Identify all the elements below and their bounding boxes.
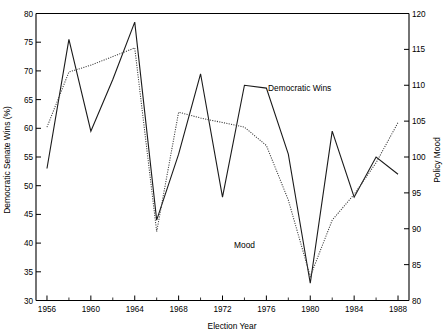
svg-text:110: 110 bbox=[412, 81, 425, 90]
svg-text:95: 95 bbox=[412, 189, 422, 198]
y-axis-left-title: Democratic Senate Wins (%) bbox=[2, 106, 12, 214]
x-axis-title: Election Year bbox=[208, 321, 257, 331]
svg-text:30: 30 bbox=[24, 297, 34, 306]
svg-text:65: 65 bbox=[24, 96, 34, 105]
annotation-democratic-wins: Democratic Wins bbox=[268, 83, 331, 93]
svg-text:1960: 1960 bbox=[82, 305, 101, 314]
svg-text:40: 40 bbox=[24, 239, 34, 248]
y-axis-right-ticks bbox=[404, 14, 409, 301]
svg-text:50: 50 bbox=[24, 182, 34, 191]
svg-text:35: 35 bbox=[24, 268, 34, 277]
svg-text:1988: 1988 bbox=[389, 305, 408, 314]
svg-text:1956: 1956 bbox=[38, 305, 57, 314]
annotation-mood: Mood bbox=[234, 240, 255, 250]
series-mood-line bbox=[47, 48, 398, 276]
y-axis-right-tick-labels: 80859095100105110115120 bbox=[412, 10, 426, 306]
x-axis-ticks bbox=[47, 296, 398, 301]
svg-text:1984: 1984 bbox=[345, 305, 364, 314]
svg-text:1968: 1968 bbox=[170, 305, 189, 314]
svg-text:105: 105 bbox=[412, 117, 426, 126]
svg-text:75: 75 bbox=[24, 38, 34, 47]
svg-text:120: 120 bbox=[412, 10, 426, 19]
svg-text:60: 60 bbox=[24, 124, 34, 133]
svg-text:80: 80 bbox=[24, 10, 34, 19]
svg-text:80: 80 bbox=[412, 297, 422, 306]
chart-container: 195619601964196819721976198019841988 303… bbox=[0, 0, 448, 333]
svg-text:45: 45 bbox=[24, 210, 34, 219]
svg-text:1976: 1976 bbox=[257, 305, 276, 314]
svg-text:100: 100 bbox=[412, 153, 426, 162]
y-axis-left-ticks bbox=[36, 14, 41, 301]
svg-text:1972: 1972 bbox=[213, 305, 232, 314]
y-axis-right-title: Policy Mood bbox=[432, 137, 442, 183]
y-axis-left-tick-labels: 3035404550556065707580 bbox=[24, 10, 34, 306]
svg-text:55: 55 bbox=[24, 153, 34, 162]
svg-text:90: 90 bbox=[412, 225, 422, 234]
svg-text:1980: 1980 bbox=[301, 305, 320, 314]
x-axis-tick-labels: 195619601964196819721976198019841988 bbox=[38, 305, 408, 314]
svg-text:1964: 1964 bbox=[126, 305, 145, 314]
line-chart-svg: 195619601964196819721976198019841988 303… bbox=[0, 0, 448, 333]
svg-text:85: 85 bbox=[412, 261, 422, 270]
svg-text:70: 70 bbox=[24, 67, 34, 76]
svg-text:115: 115 bbox=[412, 45, 425, 54]
